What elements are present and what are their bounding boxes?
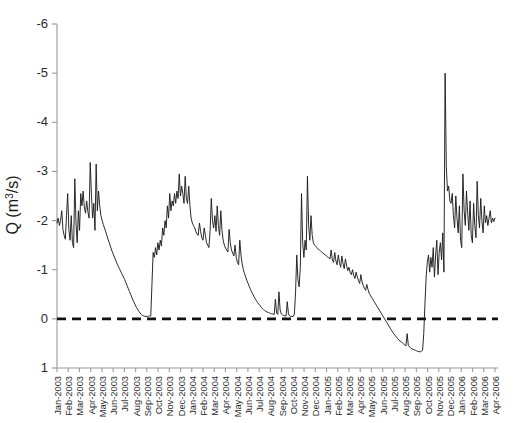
x-axis-tick-label: Mar-2006: [480, 376, 490, 416]
x-axis-tick-label: Oct-2003: [154, 376, 164, 414]
x-axis-tick-label: Feb-2006: [469, 376, 479, 416]
y-axis-tick-label: -1: [36, 262, 48, 277]
x-axis-tick-label: Jul-2003: [120, 376, 130, 412]
series-q: [57, 73, 495, 352]
discharge-time-series-chart: -6-5-4-3-2-101 Jan-2003Feb-2003Mar-2003A…: [0, 0, 514, 423]
svg-text:Q (m3/s): Q (m3/s): [3, 175, 21, 234]
x-axis-tick-label: Jan-2003: [53, 376, 63, 415]
x-axis-tick-label: May-2005: [367, 376, 377, 417]
y-axis: -6-5-4-3-2-101: [36, 16, 57, 375]
x-axis-tick-label: Sep-2004: [278, 376, 288, 416]
y-axis-tick-label: 1: [41, 360, 48, 375]
x-axis-tick-label: Mar-2005: [345, 376, 355, 416]
x-axis-tick-label: Feb-2005: [334, 376, 344, 416]
x-axis-tick-label: Jun-2005: [379, 376, 389, 415]
x-axis-tick-label: Jul-2004: [255, 376, 265, 412]
x-axis-tick-label: Dec-2003: [177, 376, 187, 416]
x-axis-tick-label: Apr-2006: [491, 376, 501, 414]
x-axis-tick-label: Jun-2004: [244, 376, 254, 415]
x-axis-tick-label: Aug-2005: [401, 376, 411, 416]
y-axis-label: Q (m3/s): [3, 175, 21, 234]
x-axis-tick-label: Apr-2003: [87, 376, 97, 414]
chart-figure: -6-5-4-3-2-101 Jan-2003Feb-2003Mar-2003A…: [0, 0, 514, 423]
x-axis-tick-label: Oct-2005: [424, 376, 434, 414]
x-axis-tick-label: Nov-2004: [300, 376, 310, 416]
x-axis-tick-label: Jan-2005: [323, 376, 333, 415]
x-axis-tick-label: May-2003: [98, 376, 108, 417]
x-axis-tick-label: Sep-2003: [143, 376, 153, 416]
x-axis-tick-label: Apr-2005: [356, 376, 366, 414]
y-axis-tick-label: -3: [36, 163, 48, 178]
x-axis-tick-label: Aug-2004: [266, 376, 276, 416]
x-axis-tick-label: Nov-2005: [435, 376, 445, 416]
x-axis-tick-label: Dec-2005: [446, 376, 456, 416]
y-axis-tick-label: -5: [36, 65, 48, 80]
x-axis-tick-label: Feb-2004: [199, 376, 209, 416]
x-axis-tick-label: Apr-2004: [221, 376, 231, 414]
series-line-q: [57, 73, 495, 352]
x-axis-tick-label: Sep-2005: [412, 376, 422, 416]
y-axis-label-suffix: /s): [4, 175, 21, 193]
x-axis-tick-label: Oct-2004: [289, 376, 299, 414]
x-axis-tick-label: Jan-2006: [457, 376, 467, 415]
x-axis: Jan-2003Feb-2003Mar-2003Apr-2003May-2003…: [53, 368, 501, 417]
x-axis-tick-label: Jun-2003: [109, 376, 119, 415]
y-axis-tick-label: -6: [36, 16, 48, 31]
x-axis-tick-label: Dec-2004: [311, 376, 321, 416]
x-axis-tick-label: Nov-2003: [165, 376, 175, 416]
y-axis-tick-label: -4: [36, 114, 48, 129]
x-axis-tick-label: Jan-2004: [188, 376, 198, 415]
x-axis-tick-label: Mar-2004: [210, 376, 220, 416]
x-axis-tick-label: Feb-2003: [64, 376, 74, 416]
y-axis-tick-label: 0: [41, 311, 48, 326]
y-axis-label-prefix: Q (m: [4, 199, 21, 235]
x-axis-tick-label: Jul-2005: [390, 376, 400, 412]
x-axis-tick-label: Mar-2003: [75, 376, 85, 416]
y-axis-tick-label: -2: [36, 213, 48, 228]
x-axis-tick-label: May-2004: [233, 376, 243, 417]
x-axis-tick-label: Aug-2003: [132, 376, 142, 416]
